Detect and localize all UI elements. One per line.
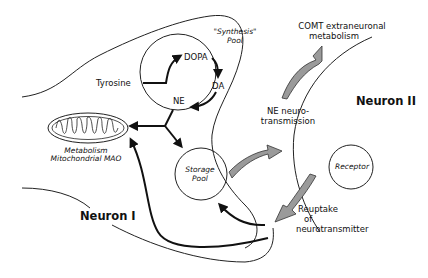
synthesis-pool-label: "Synthesis" — [213, 27, 256, 36]
ne-to-storage-arrow — [165, 126, 181, 146]
synthesis-pool-label-2: Pool — [227, 36, 244, 45]
neuron-1-membrane-lower — [22, 188, 90, 208]
ne-label: NE — [173, 96, 185, 106]
reuptake-to-mitochondrion-arrow — [131, 140, 268, 247]
reuptake-label-3: neurotransmitter — [296, 224, 369, 234]
dopa-to-da-arrow — [212, 58, 218, 76]
reuptake-label: Reuptake — [298, 204, 338, 214]
transmission-label-2: transmission — [261, 116, 315, 126]
da-label: DA — [212, 81, 224, 91]
storage-pool-label-2: Pool — [192, 174, 209, 183]
transmission-to-comt-arrow — [282, 46, 322, 99]
mitochondrion-label-2: Mitochondrial MAO — [51, 154, 122, 163]
neuron-1-label: Neuron I — [80, 209, 136, 223]
neuron-1-membrane-bottom — [112, 225, 273, 262]
ne-branch-stem — [165, 110, 173, 126]
storage-pool-label: Storage — [185, 165, 215, 174]
mitochondrion-icon — [48, 113, 128, 143]
receptor-label: Receptor — [335, 162, 370, 171]
tyrosine-to-dopa-arrow — [143, 56, 180, 83]
reuptake-label-2: of — [304, 214, 313, 224]
neuron-2-label: Neuron II — [356, 94, 416, 108]
dopa-label: DOPA — [184, 52, 208, 62]
reuptake-to-storage-arrow — [220, 205, 265, 225]
transmission-label: NE neuro- — [267, 106, 309, 116]
storage-to-transmission-arrow — [229, 145, 282, 178]
noradrenergic-synapse-diagram: "Synthesis" Pool DOPA DA NE Tyrosine Met… — [0, 0, 428, 278]
comt-label: COMT extraneuronal — [298, 21, 385, 31]
comt-label-2: metabolism — [309, 31, 359, 41]
tyrosine-label: Tyrosine — [95, 78, 131, 88]
